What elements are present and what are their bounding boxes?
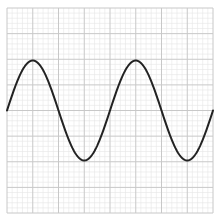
sine-wave-chart xyxy=(0,0,216,217)
